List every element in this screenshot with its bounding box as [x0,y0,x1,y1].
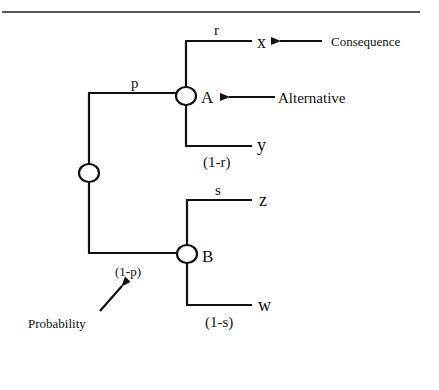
outcome-w: w [258,295,271,315]
prob-label-r: r [214,22,219,38]
prob-label-1-minus-r: (1-r) [203,154,230,171]
alternative-annotation: Alternative [278,90,346,106]
probability-arrow-icon [100,286,122,311]
prob-label-p: p [131,75,139,91]
root-chance-node [79,164,99,182]
probability-annotation: Probability [28,316,86,331]
decision-tree-diagram: A B p (1-p) r (1-r) s (1-s) x y z w Cons… [0,0,439,390]
node-A-label: A [201,88,214,107]
node-B-circle [177,245,197,263]
outcome-y: y [257,135,266,155]
prob-label-s: s [215,182,221,198]
node-A-circle [176,87,196,105]
node-B-label: B [202,247,213,266]
prob-label-1-minus-p: (1-p) [115,264,141,279]
consequence-annotation: Consequence [331,34,401,49]
outcome-x: x [257,32,266,52]
prob-label-1-minus-s: (1-s) [205,314,233,331]
outcome-z: z [259,190,267,210]
